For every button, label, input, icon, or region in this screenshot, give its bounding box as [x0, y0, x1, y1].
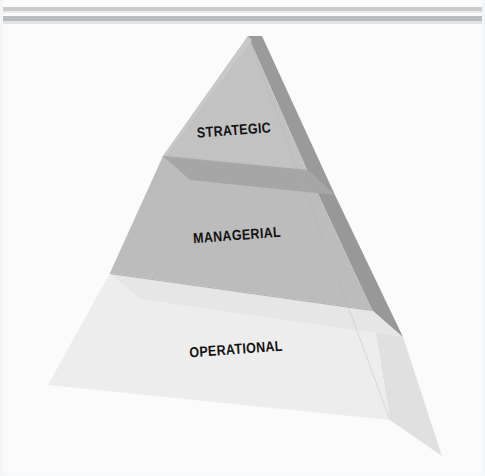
pyramid-diagram-canvas: STRATEGIC MANAGERIAL OPERATIONAL [0, 0, 485, 476]
